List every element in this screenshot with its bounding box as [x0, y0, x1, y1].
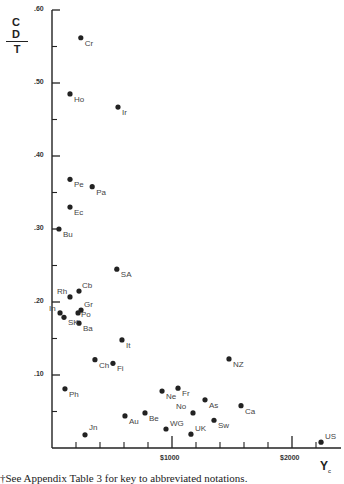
data-point-it [119, 337, 124, 342]
data-point-jn [82, 432, 87, 437]
data-point-uk [188, 432, 193, 437]
data-point-ir [115, 104, 120, 109]
x-axis-label-main: Y [320, 459, 328, 473]
x-tick-label: $2000 [280, 454, 299, 461]
point-label-fr: Fr [182, 389, 190, 398]
scatter-plot [0, 0, 344, 484]
y-tick-label: .60 [34, 5, 44, 12]
point-label-cb: Cb [82, 281, 92, 290]
y-tick-label: .50 [34, 78, 44, 85]
point-label-rh: Rh [57, 287, 67, 296]
point-label-us: US [325, 432, 336, 441]
point-label-ba: Ba [83, 324, 93, 333]
point-label-in: In [49, 304, 56, 313]
data-point-rh [67, 294, 72, 299]
point-label-ch: Ch [99, 361, 109, 370]
data-point-ne [159, 388, 164, 393]
point-label-ph: Ph [69, 390, 79, 399]
point-label-be: Be [149, 414, 159, 423]
point-label-fi: Fi [117, 364, 124, 373]
point-label-pe: Pe [74, 180, 84, 189]
point-label-ir: Ir [122, 108, 127, 117]
point-label-ne: Ne [166, 392, 176, 401]
data-point-wg [163, 426, 168, 431]
data-point-fr [175, 386, 180, 391]
x-tick-label: $1000 [160, 454, 179, 461]
point-label-ec: Ec [74, 208, 83, 217]
point-label-cr: Cr [85, 39, 93, 48]
data-point-in [57, 310, 62, 315]
data-point-pa [90, 184, 95, 189]
y-tick-label: .10 [34, 370, 44, 377]
data-point-pe [67, 177, 72, 182]
point-label-bu: Bu [63, 230, 73, 239]
point-label-sa: SA [121, 270, 132, 279]
data-point-cb [76, 288, 81, 293]
x-axis-label: Yc [320, 459, 331, 474]
axes [52, 10, 341, 448]
point-label-au: Au [129, 417, 139, 426]
point-label-uk: UK [195, 424, 206, 433]
y-tick-label: .20 [34, 297, 44, 304]
data-point-be [142, 410, 147, 415]
data-point-po [75, 310, 80, 315]
x-axis-label-subscript: c [328, 468, 331, 474]
data-point-ph [62, 386, 67, 391]
data-point-sa [114, 267, 119, 272]
point-label-wg: WG [170, 419, 184, 428]
point-label-ho: Ho [74, 95, 84, 104]
point-label-pa: Pa [96, 188, 106, 197]
y-tick-label: .30 [34, 224, 44, 231]
point-label-sk: SK [68, 318, 79, 327]
point-label-nz: NZ [233, 360, 244, 369]
data-point-ch [92, 357, 97, 362]
data-points [56, 35, 323, 445]
data-point-ec [67, 205, 72, 210]
data-point-nz [226, 356, 231, 361]
data-point-bu [56, 226, 61, 231]
data-point-as [202, 397, 207, 402]
y-tick-label: .40 [34, 151, 44, 158]
data-point-ca [238, 403, 243, 408]
data-point-no [190, 410, 195, 415]
point-label-sw: Sw [218, 421, 229, 430]
data-point-us [318, 440, 323, 445]
point-label-no: No [176, 402, 186, 411]
data-point-ho [67, 91, 72, 96]
point-label-as: As [209, 401, 218, 410]
point-label-gr: Gr [84, 300, 93, 309]
point-label-it: It [126, 341, 130, 350]
point-label-ca: Ca [245, 407, 255, 416]
point-label-po: Po [81, 310, 91, 319]
point-label-jn: Jn [89, 423, 97, 432]
data-point-fi [110, 361, 115, 366]
data-point-au [122, 413, 127, 418]
data-point-sk [61, 315, 66, 320]
data-point-cr [78, 35, 83, 40]
figure-caption: †See Appendix Table 3 for key to abbrevi… [0, 472, 247, 484]
data-point-sw [211, 418, 216, 423]
